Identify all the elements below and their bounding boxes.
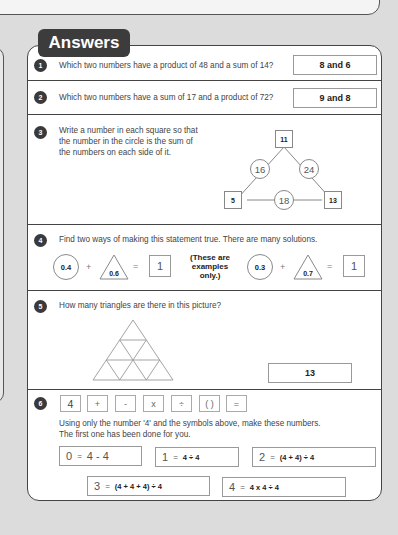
question-number-badge: 3 (34, 126, 47, 139)
answers-heading: Answers (38, 29, 130, 57)
expression-box-4[interactable]: 4 = 4 x 4 ÷ 4 (222, 477, 346, 497)
question-6: 6 4 + - x ÷ ( ) = Using only the number … (28, 390, 381, 501)
square-bottom-right[interactable]: 13 (324, 191, 342, 209)
symbol-equals: = (226, 395, 247, 412)
triangle-input[interactable]: 0.6 (99, 254, 129, 280)
question-text: Which two numbers have a sum of 17 and a… (59, 92, 273, 103)
triangle-puzzle-figure (90, 318, 176, 383)
symbol-brackets: ( ) (199, 395, 220, 412)
square-bottom-left[interactable]: 5 (224, 191, 242, 209)
equals-sign: = (133, 261, 138, 271)
question-text: Find two ways of making this statement t… (59, 234, 317, 245)
symbol-minus: - (115, 395, 136, 412)
plus-sign: + (86, 262, 91, 272)
examples-note: (These are examples only.) (182, 253, 238, 280)
symbol-plus: + (87, 395, 108, 412)
square-top[interactable]: 11 (275, 130, 293, 148)
question-5: 5 How many triangles are there in this p… (28, 291, 381, 390)
question-text: Write a number in each square so that th… (59, 125, 198, 158)
symbol-multiply: x (143, 395, 164, 412)
expression-box-2[interactable]: 2 = (4 + 4) ÷ 4 (252, 447, 376, 467)
expression-box-3[interactable]: 3 = (4 + 4 + 4) ÷ 4 (87, 476, 210, 496)
circle-input[interactable]: 0.4 (53, 254, 79, 280)
question-text: Using only the number '4' and the symbol… (59, 418, 321, 440)
symbol-divide: ÷ (171, 395, 192, 412)
question-number-badge: 6 (34, 397, 47, 410)
question-text: Which two numbers have a product of 48 a… (59, 60, 273, 71)
expression-box-0: 0 = 4 - 4 (59, 446, 142, 466)
circle-input[interactable]: 0.3 (247, 254, 273, 280)
expression-box-1[interactable]: 1 = 4 ÷ 4 (155, 447, 239, 467)
triangle-input[interactable]: 0.7 (293, 254, 323, 280)
answer-box[interactable]: 9 and 8 (293, 88, 377, 108)
answers-card: 1 Which two numbers have a product of 48… (27, 45, 382, 501)
question-2: 2 Which two numbers have a sum of 17 and… (28, 81, 381, 115)
answer-box[interactable]: 8 and 6 (293, 55, 377, 75)
question-4: 4 Find two ways of making this statement… (28, 225, 381, 291)
plus-sign: + (280, 262, 285, 272)
equals-sign: = (327, 261, 332, 271)
question-text: How many triangles are there in this pic… (59, 300, 221, 311)
result-box[interactable]: 1 (343, 255, 365, 277)
question-number-badge: 2 (34, 91, 47, 104)
circle-left: 16 (250, 159, 270, 179)
answer-box[interactable]: 13 (268, 363, 352, 383)
question-number-badge: 5 (34, 300, 47, 313)
question-number-badge: 1 (34, 59, 47, 72)
result-box[interactable]: 1 (149, 255, 171, 277)
symbol-four: 4 (60, 395, 81, 412)
question-number-badge: 4 (34, 234, 47, 247)
side-panel (0, 47, 4, 403)
question-3: 3 Write a number in each square so that … (28, 115, 381, 225)
circle-right: 24 (299, 159, 319, 179)
circle-bottom: 18 (274, 190, 294, 210)
previous-panel (0, 0, 380, 15)
